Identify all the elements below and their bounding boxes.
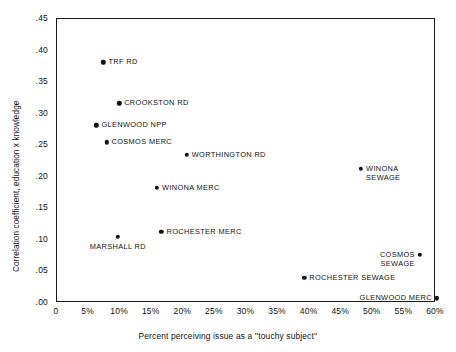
data-point-label: COSMOS MERC bbox=[112, 138, 173, 147]
data-point-label: GLENWOOD NPP bbox=[101, 121, 166, 130]
x-axis-tick-label: 25% bbox=[205, 306, 223, 316]
data-point-label: WORTHINGTON RD bbox=[192, 150, 266, 159]
data-point-label: MARSHALL RD bbox=[90, 242, 146, 251]
x-axis-tick-label: 40% bbox=[300, 306, 318, 316]
y-axis-tick-label: .05 bbox=[36, 265, 48, 275]
y-axis-title: Correlation coefficient, education x kno… bbox=[12, 101, 21, 272]
data-point-label: WINONA SEWAGE bbox=[366, 164, 400, 182]
x-axis-tick-label: 5% bbox=[81, 306, 94, 316]
scatter-plot-figure: .45.40.35.30.25.20.15.10.05.00 Correlati… bbox=[0, 0, 456, 352]
data-point-label: TRF RD bbox=[108, 58, 137, 67]
x-axis-tick-label: 55% bbox=[395, 306, 413, 316]
data-point bbox=[435, 296, 439, 300]
x-axis-tick-label: 45% bbox=[331, 306, 349, 316]
data-point-label: WINONA MERC bbox=[162, 183, 220, 192]
data-point-label: ROCHESTER MERC bbox=[166, 227, 241, 236]
y-axis-tick-label: .10 bbox=[36, 234, 48, 244]
y-axis-tick-label: .20 bbox=[36, 171, 48, 181]
data-point-label: CROOKSTON RD bbox=[124, 99, 188, 108]
x-axis-tick-label: 20% bbox=[174, 306, 192, 316]
x-axis-tick-label: 30% bbox=[237, 306, 255, 316]
y-axis-tick-labels: .45.40.35.30.25.20.15.10.05.00 bbox=[0, 0, 52, 352]
x-axis-tick-label: 50% bbox=[363, 306, 381, 316]
x-axis-tick-labels: 05%10%15%20%25%30%35%40%45%50%55%60% bbox=[0, 306, 456, 320]
data-point-label: COSMOS SEWAGE bbox=[380, 250, 415, 268]
x-axis-tick-label: 0 bbox=[54, 306, 59, 316]
data-point-label: GLENWOOD MERC bbox=[360, 294, 432, 303]
y-axis-tick-label: .25 bbox=[36, 139, 48, 149]
x-axis-tick-label: 15% bbox=[142, 306, 160, 316]
y-axis-tick-label: .45 bbox=[36, 13, 48, 23]
y-axis-tick-label: .15 bbox=[36, 202, 48, 212]
x-axis-tick-label: 35% bbox=[268, 306, 286, 316]
data-point-label: ROCHESTER SEWAGE bbox=[309, 273, 395, 282]
x-axis-tick-label: 60% bbox=[426, 306, 444, 316]
y-axis-tick-label: .30 bbox=[36, 108, 48, 118]
x-axis-title: Percent perceiving issue as a ''touchy s… bbox=[0, 331, 456, 341]
y-axis-tick-label: .40 bbox=[36, 45, 48, 55]
x-axis-tick-label: 10% bbox=[110, 306, 128, 316]
y-axis-tick-label: .35 bbox=[36, 76, 48, 86]
